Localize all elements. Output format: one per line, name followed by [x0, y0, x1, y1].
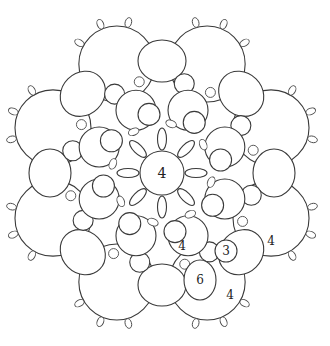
middle-ring [210, 149, 232, 171]
joining-picot-icon [109, 249, 119, 259]
diagram-canvas: 443464 [0, 0, 330, 346]
inner-petal [158, 128, 167, 150]
middle-ring [119, 213, 141, 235]
inner-petal [185, 169, 207, 178]
picot-icon [124, 318, 133, 329]
joining-picot-icon [66, 191, 76, 201]
middle-ring [138, 103, 160, 125]
picot-icon [307, 135, 318, 144]
label-outer-chain-bottom: 4 [226, 288, 234, 302]
picot-icon [6, 202, 17, 211]
label-center-ring: 4 [158, 165, 167, 181]
label-outer-chain-right: 4 [267, 234, 275, 248]
joining-picot-icon [248, 145, 258, 155]
joining-picot-icon [134, 77, 144, 87]
inner-petal [175, 138, 197, 160]
picot-icon [6, 135, 17, 144]
inner-petal [175, 186, 197, 208]
middle-ring [100, 130, 122, 152]
inner-petal [127, 138, 149, 160]
middle-ring [183, 111, 205, 133]
label-small-ring: 3 [222, 244, 230, 258]
middle-ring [92, 175, 114, 197]
picot-icon [124, 17, 133, 28]
joining-picot-icon [76, 120, 86, 130]
inner-petal [127, 186, 149, 208]
middle-ring [202, 194, 224, 216]
inner-petal [117, 169, 139, 178]
label-large-ring: 6 [196, 273, 204, 287]
picot-icon [191, 17, 200, 28]
tatting-diagram: 443464 4 4 3 4 6 4 [0, 0, 330, 346]
picot-icon [191, 318, 200, 329]
inner-petal [158, 196, 167, 218]
joining-picot-icon [238, 216, 248, 226]
picot-icon [307, 202, 318, 211]
label-inner-chain: 4 [178, 239, 186, 253]
joining-picot-icon [205, 87, 215, 97]
